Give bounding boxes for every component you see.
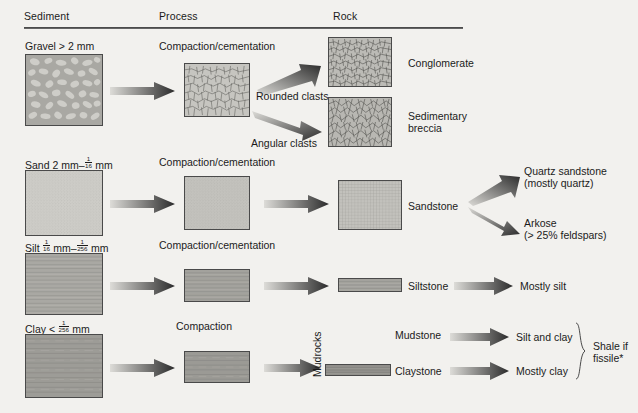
column-header-process: Process — [159, 10, 198, 22]
sand-size-pre: 2 mm– — [52, 159, 84, 171]
shale-brace — [574, 322, 588, 380]
silt-fraction-2: 1256 — [77, 239, 87, 253]
sandstone-label: Sandstone — [408, 200, 458, 212]
silt-size-tail: mm — [91, 242, 109, 254]
arrow-mudstone-to-product — [450, 326, 510, 348]
mostly-clay-label: Mostly clay — [516, 365, 568, 377]
silt-sediment-name: Silt — [25, 242, 40, 254]
silt-fraction-1: 116 — [43, 239, 50, 253]
arrow-gravel-sediment-to-process — [110, 80, 176, 102]
clay-sediment-name: Clay — [25, 323, 46, 335]
clay-sediment-label: Clay < 1256 mm — [25, 320, 90, 335]
sandstone-texture-box — [338, 180, 402, 230]
silt-frac1-denominator: 16 — [43, 246, 50, 253]
silt-process-label: Compaction/cementation — [159, 239, 275, 251]
claystone-texture-box — [325, 364, 391, 376]
diagram-canvas: Sediment Process Rock Gravel > 2 mm — [0, 0, 638, 413]
sedimentary-breccia-label: Sedimentary breccia — [408, 110, 498, 134]
gravel-sediment-texture-box — [25, 54, 103, 126]
sand-sediment-label: Sand 2 mm–116 mm — [25, 156, 113, 171]
gravel-process-texture-box — [184, 63, 250, 117]
clay-frac-denominator: 256 — [59, 327, 69, 334]
arrow-quartz-sandstone — [466, 172, 524, 206]
arrow-silt-process-to-rock — [264, 275, 330, 297]
shale-line1: Shale if — [593, 340, 638, 352]
quartz-sandstone-line2: (mostly quartz) — [524, 177, 634, 189]
clay-process-label: Compaction — [176, 320, 232, 332]
sand-size-post: mm — [95, 159, 113, 171]
column-header-rock: Rock — [333, 10, 357, 22]
clay-lt-symbol: < — [49, 323, 55, 335]
claystone-label: Claystone — [395, 365, 442, 377]
clay-process-texture-box — [184, 351, 250, 383]
sand-sediment-name: Sand — [25, 159, 50, 171]
gravel-process-label: Compaction/cementation — [159, 40, 275, 52]
sand-sediment-texture-box — [25, 170, 103, 236]
mostly-silt-label: Mostly silt — [520, 280, 566, 292]
shale-if-fissile-label: Shale if fissile* — [593, 340, 638, 364]
conglomerate-texture-box — [328, 37, 392, 87]
sand-process-label: Compaction/cementation — [159, 156, 275, 168]
quartz-sandstone-line1: Quartz sandstone — [524, 165, 634, 177]
sand-size-fraction: 116 — [85, 156, 92, 170]
arkose-line1: Arkose — [524, 217, 634, 229]
mudrocks-group-label: Mudrocks — [311, 331, 323, 377]
clay-fraction: 1256 — [59, 320, 69, 334]
conglomerate-label: Conglomerate — [408, 57, 474, 69]
siltstone-label: Siltstone — [408, 280, 448, 292]
arrow-siltstone-to-product — [454, 275, 514, 297]
clay-sediment-texture-box — [25, 334, 103, 398]
silt-and-clay-label: Silt and clay — [516, 331, 573, 343]
silt-process-texture-box — [184, 269, 250, 302]
arrow-clay-sediment-to-process — [110, 357, 176, 379]
arrow-claystone-to-product — [450, 360, 510, 382]
angular-clasts-label: Angular clasts — [251, 137, 317, 149]
gravel-sediment-name: Gravel — [25, 40, 56, 52]
gravel-sediment-label: Gravel > 2 mm — [25, 40, 94, 52]
arkose-label: Arkose (> 25% feldspars) — [524, 217, 634, 241]
sedimentary-breccia-line1: Sedimentary breccia — [408, 110, 498, 134]
quartz-sandstone-label: Quartz sandstone (mostly quartz) — [524, 165, 634, 189]
silt-size-mid: mm– — [53, 242, 76, 254]
shale-line2: fissile* — [593, 352, 638, 364]
sedimentary-breccia-texture-box — [328, 97, 392, 147]
sand-process-texture-box — [184, 176, 250, 230]
arrow-sand-sediment-to-process — [110, 193, 176, 215]
column-header-sediment: Sediment — [24, 10, 69, 22]
clay-size-tail: mm — [72, 323, 90, 335]
rounded-clasts-label: Rounded clasts — [256, 90, 328, 102]
arkose-line2: (> 25% feldspars) — [524, 229, 634, 241]
siltstone-texture-box — [338, 278, 402, 292]
gravel-sediment-size: > 2 mm — [59, 40, 94, 52]
arrow-arkose — [466, 203, 524, 237]
sand-frac-denominator: 16 — [85, 163, 92, 170]
silt-frac2-denominator: 256 — [77, 246, 87, 253]
silt-sediment-texture-box — [25, 253, 103, 315]
arrow-silt-sediment-to-process — [110, 275, 176, 297]
silt-sediment-label: Silt 116 mm–1256 mm — [25, 239, 108, 254]
header-divider-rule — [24, 27, 463, 29]
mudstone-label: Mudstone — [395, 329, 441, 341]
arrow-sand-process-to-rock — [264, 193, 330, 215]
